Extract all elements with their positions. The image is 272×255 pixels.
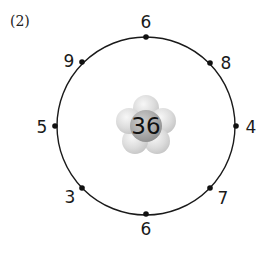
point-label: 9: [64, 51, 75, 71]
point-label: 3: [65, 187, 76, 207]
point-label: 8: [221, 53, 232, 73]
dot-icon: [79, 185, 85, 191]
point-left: 5: [37, 117, 58, 137]
dot-icon: [207, 185, 213, 191]
point-top: 6: [141, 12, 152, 40]
point-lower-left: 3: [65, 185, 85, 207]
point-label: 6: [141, 219, 152, 239]
number-circle-diagram: 36 6 8 4 7 6 3 5 9: [0, 0, 272, 255]
point-upper-left: 9: [64, 51, 85, 71]
dot-icon: [143, 34, 149, 40]
dot-icon: [79, 59, 85, 65]
dot-icon: [52, 123, 58, 129]
point-upper-right: 8: [207, 53, 231, 73]
point-label: 6: [141, 12, 152, 32]
center-number: 36: [131, 113, 160, 139]
dot-icon: [143, 211, 149, 217]
point-label: 7: [218, 188, 229, 208]
point-lower-right: 7: [207, 185, 228, 208]
point-right: 4: [233, 117, 256, 137]
dot-icon: [207, 60, 213, 66]
point-label: 4: [246, 117, 257, 137]
point-label: 5: [37, 117, 48, 137]
dot-icon: [233, 123, 239, 129]
